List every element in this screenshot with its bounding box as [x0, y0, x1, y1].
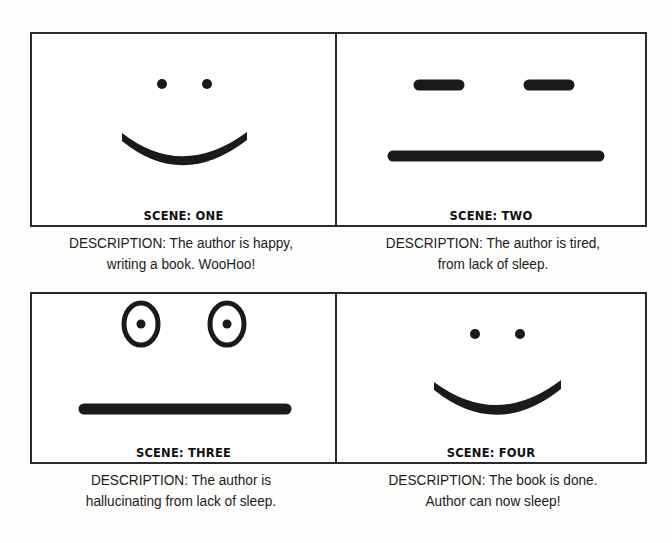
- scene-label: SCENE: THREE: [32, 446, 335, 460]
- scene-label: SCENE: TWO: [337, 209, 645, 223]
- description-line: Author can now sleep!: [339, 490, 647, 511]
- scene-label: SCENE: ONE: [32, 209, 335, 223]
- description-line: hallucinating from lack of sleep.: [22, 490, 341, 511]
- description-line: writing a book. WooHoo!: [22, 253, 341, 274]
- scene-panel-two: SCENE: TWO: [335, 32, 647, 227]
- happy-face-icon: [32, 34, 335, 225]
- scene-panel-one: SCENE: ONE: [30, 32, 337, 227]
- description-line: DESCRIPTION: The author is tired,: [339, 232, 647, 253]
- description-line: from lack of sleep.: [339, 253, 647, 274]
- description-line: DESCRIPTION: The book is done.: [339, 469, 647, 490]
- scene-description: DESCRIPTION: The author is tired, from l…: [339, 232, 647, 274]
- scene-description: DESCRIPTION: The author is hallucinating…: [22, 469, 341, 511]
- tired-face-icon: [337, 34, 645, 225]
- scene-label: SCENE: FOUR: [337, 446, 645, 460]
- description-line: DESCRIPTION: The author is happy,: [22, 232, 341, 253]
- scene-panel-three: SCENE: THREE: [30, 292, 337, 464]
- scene-description: DESCRIPTION: The author is happy, writin…: [22, 232, 341, 274]
- description-line: DESCRIPTION: The author is: [22, 469, 341, 490]
- hallucinating-face-icon: [32, 294, 335, 462]
- happy-face-icon: [337, 294, 645, 462]
- scene-panel-four: SCENE: FOUR: [335, 292, 647, 464]
- scene-description: DESCRIPTION: The book is done. Author ca…: [339, 469, 647, 511]
